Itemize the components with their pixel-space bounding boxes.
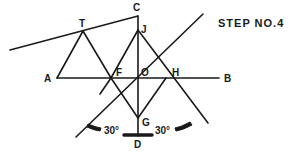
label-g: G bbox=[142, 117, 150, 128]
label-t: T bbox=[79, 18, 85, 29]
label-d: D bbox=[134, 139, 141, 150]
line-to-c bbox=[10, 16, 138, 50]
geometry-diagram: C T J A F O H B G D 30° 30° STEP NO.4 bbox=[0, 0, 297, 155]
line-ta bbox=[57, 31, 83, 78]
angle-label-left: 30° bbox=[104, 125, 119, 136]
line-gh bbox=[138, 78, 166, 118]
angle-arc-left-outer bbox=[87, 124, 101, 131]
angle-arc-right-outer bbox=[175, 122, 192, 131]
label-f: F bbox=[116, 67, 122, 78]
label-o: O bbox=[141, 67, 149, 78]
angle-label-right: 30° bbox=[155, 125, 170, 136]
label-b: B bbox=[224, 73, 231, 84]
line-fg bbox=[111, 78, 138, 118]
label-c: C bbox=[133, 2, 140, 13]
label-h: H bbox=[172, 67, 179, 78]
label-j: J bbox=[141, 24, 147, 35]
step-title: STEP NO.4 bbox=[218, 17, 284, 29]
line-f-extension bbox=[100, 78, 111, 94]
label-a: A bbox=[44, 73, 51, 84]
line-tf bbox=[83, 31, 111, 78]
